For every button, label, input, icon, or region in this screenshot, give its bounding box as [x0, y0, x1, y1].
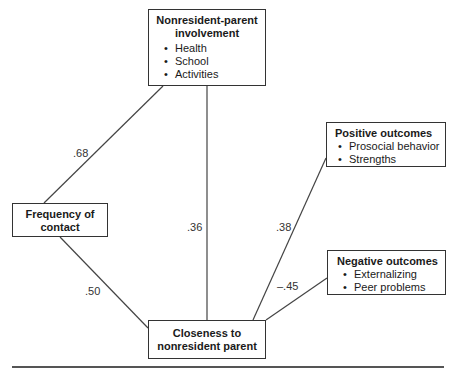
node-title: Positive outcomes [335, 127, 445, 140]
edge-frequency-involvement [44, 86, 163, 203]
node-title: Negative outcomes [337, 255, 445, 268]
coefficient-label: .38 [276, 221, 291, 233]
list-item: Activities [161, 68, 265, 81]
coefficient-label: –.45 [277, 280, 298, 292]
coefficient-label: .68 [73, 147, 88, 159]
node-negative-outcomes: Negative outcomes Externalizing Peer pro… [327, 250, 446, 295]
coefficient-label: .50 [85, 285, 100, 297]
list-item: Externalizing [340, 268, 445, 281]
node-closeness-to-nonresident-parent: Closeness to nonresident parent [148, 320, 266, 359]
edge-closeness-positive [253, 158, 326, 320]
node-items: Prosocial behavior Strengths [335, 140, 445, 166]
node-items: Health School Activities [161, 42, 265, 81]
list-item: Peer problems [340, 281, 445, 294]
coefficient-label: .36 [187, 221, 202, 233]
bottom-divider [12, 366, 444, 368]
list-item: Strengths [335, 153, 445, 166]
list-item: Prosocial behavior [335, 140, 445, 153]
list-item: Health [161, 42, 265, 55]
node-frequency-of-contact: Frequency of contact [12, 203, 108, 237]
edge-frequency-closeness [60, 237, 148, 328]
node-nonresident-parent-involvement: Nonresident-parent involvement Health Sc… [148, 9, 266, 86]
node-title: Closeness to nonresident parent [149, 327, 265, 353]
node-title: Nonresident-parent involvement [149, 14, 265, 40]
node-items: Externalizing Peer problems [340, 268, 445, 294]
node-title: Frequency of contact [13, 208, 107, 234]
list-item: School [161, 55, 265, 68]
node-positive-outcomes: Positive outcomes Prosocial behavior Str… [326, 122, 446, 167]
